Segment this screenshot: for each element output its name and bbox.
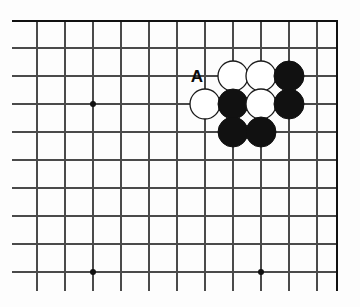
black-stone[interactable] xyxy=(274,61,304,91)
board-canvas: A xyxy=(0,0,360,307)
stones-layer xyxy=(190,61,304,147)
point-label-a: A xyxy=(191,67,203,86)
white-stone[interactable] xyxy=(190,89,220,119)
black-stone[interactable] xyxy=(246,117,276,147)
annotations-layer: A xyxy=(191,67,203,86)
star-point xyxy=(258,269,264,275)
black-stone[interactable] xyxy=(218,89,248,119)
white-stone[interactable] xyxy=(246,89,276,119)
black-stone[interactable] xyxy=(274,89,304,119)
go-board-diagram: A xyxy=(0,0,360,307)
white-stone[interactable] xyxy=(246,61,276,91)
white-stone[interactable] xyxy=(218,61,248,91)
black-stone[interactable] xyxy=(218,117,248,147)
star-point xyxy=(90,269,96,275)
star-point xyxy=(90,101,96,107)
